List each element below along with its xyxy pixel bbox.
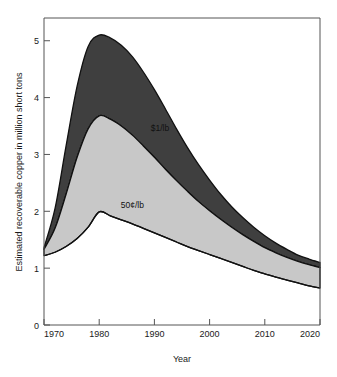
- area-chart-svg: 012345197019801990200020102020 $2/lb$1/l…: [0, 0, 337, 377]
- x-tick-label-1980: 1980: [89, 329, 109, 339]
- y-tick-label-3: 3: [34, 150, 39, 160]
- chart-figure: 012345197019801990200020102020 $2/lb$1/l…: [0, 0, 337, 377]
- x-tick-label-2000: 2000: [200, 329, 220, 339]
- series-label-0: $2/lb: [162, 58, 181, 68]
- chart-bands: [44, 35, 320, 288]
- x-tick-label-1990: 1990: [144, 329, 164, 339]
- y-tick-label-1: 1: [34, 264, 39, 274]
- y-tick-label-0: 0: [34, 321, 39, 331]
- y-axis-title: Estimated recoverable copper in million …: [14, 72, 24, 272]
- series-label-2: 50¢/lb: [121, 200, 144, 210]
- x-tick-label-2020: 2020: [300, 329, 320, 339]
- x-tick-label-1970: 1970: [44, 329, 64, 339]
- y-tick-label-2: 2: [34, 207, 39, 217]
- series-label-1: $1/lb: [151, 123, 170, 133]
- y-tick-label-4: 4: [34, 93, 39, 103]
- y-tick-label-5: 5: [34, 36, 39, 46]
- x-axis-title: Year: [173, 354, 191, 364]
- x-tick-label-2010: 2010: [255, 329, 275, 339]
